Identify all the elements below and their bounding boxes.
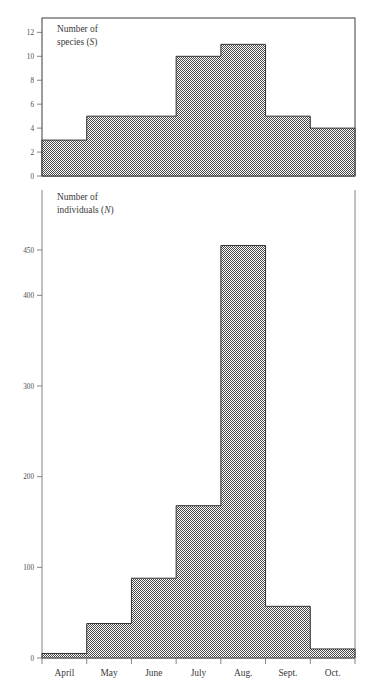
x-axis: AprilMayJuneJulyAug.Sept.Oct. (42, 658, 355, 678)
individuals-label-prefix: individuals ( (57, 205, 104, 216)
individuals-label-suffix: ) (110, 205, 113, 216)
species-ytick-label: 4 (30, 125, 34, 133)
species-label-line1: Number of (57, 24, 99, 34)
species-ytick-label: 6 (30, 101, 34, 109)
species-label-prefix: species ( (57, 37, 90, 48)
x-tick-label-july: July (191, 668, 207, 678)
figure-container: 024681012 Number of species (S) 01002003… (0, 0, 373, 692)
individuals-plot-area (42, 190, 355, 658)
panel-species: 024681012 Number of species (S) (27, 18, 355, 181)
individuals-ytick-label: 300 (23, 383, 34, 391)
x-tick-label-june: June (145, 668, 162, 678)
individuals-ytick-label: 0 (30, 655, 34, 663)
species-ytick-label: 0 (30, 173, 34, 181)
x-tick-label-sept: Sept. (278, 668, 297, 678)
x-tick-label-may: May (100, 668, 117, 678)
individuals-ytick-label: 450 (23, 247, 34, 255)
species-label-line2: species (S) (57, 37, 97, 48)
individuals-ytick-label: 400 (23, 292, 34, 300)
individuals-step-area (42, 245, 355, 658)
individuals-ytick-group: 0100200300400450 (23, 247, 42, 663)
individuals-label-line2: individuals (N) (57, 205, 114, 216)
two-panel-histogram: 024681012 Number of species (S) 01002003… (0, 0, 373, 692)
x-tick-label-april: April (54, 668, 74, 678)
species-ytick-label: 12 (27, 29, 35, 37)
species-ytick-group: 024681012 (27, 29, 42, 181)
species-ytick-label: 10 (27, 53, 35, 61)
individuals-ytick-label: 100 (23, 564, 34, 572)
species-ytick-label: 2 (30, 149, 34, 157)
x-tick-label-oct: Oct. (325, 668, 341, 678)
species-ytick-label: 8 (30, 77, 34, 85)
panel-individuals: 0100200300400450 Number of individuals (… (23, 190, 355, 663)
species-label-suffix: ) (94, 37, 97, 48)
x-tick-label-aug: Aug. (234, 668, 253, 678)
individuals-label-line1: Number of (57, 192, 99, 202)
species-step-area (42, 44, 355, 176)
individuals-ytick-label: 200 (23, 473, 34, 481)
x-label-group: AprilMayJuneJulyAug.Sept.Oct. (54, 668, 340, 678)
x-tick-group (42, 658, 355, 664)
